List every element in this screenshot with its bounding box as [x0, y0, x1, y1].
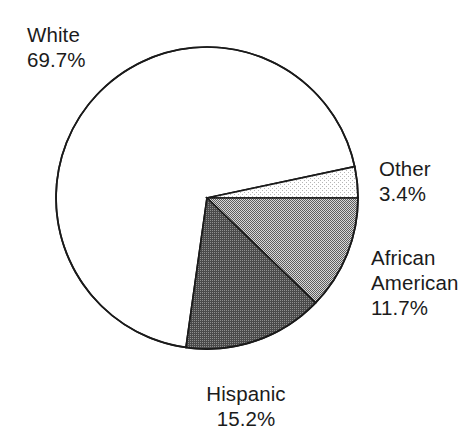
label-other: Other 3.4%: [379, 156, 431, 206]
label-hispanic-name: Hispanic: [187, 381, 305, 406]
label-african-american: African American 11.7%: [371, 245, 458, 320]
label-white: White 69.7%: [27, 22, 86, 72]
label-african-american-percent: 11.7%: [371, 295, 458, 320]
label-hispanic-percent: 15.2%: [187, 406, 305, 431]
label-white-percent: 69.7%: [27, 47, 86, 72]
label-hispanic: Hispanic 15.2%: [187, 381, 305, 431]
label-other-name: Other: [379, 156, 431, 181]
label-white-name: White: [27, 22, 86, 47]
label-other-percent: 3.4%: [379, 181, 431, 206]
pie-chart-figure: White 69.7% Other 3.4% African American …: [0, 0, 472, 435]
label-african-american-line2: American: [371, 270, 458, 295]
label-african-american-line1: African: [371, 245, 458, 270]
